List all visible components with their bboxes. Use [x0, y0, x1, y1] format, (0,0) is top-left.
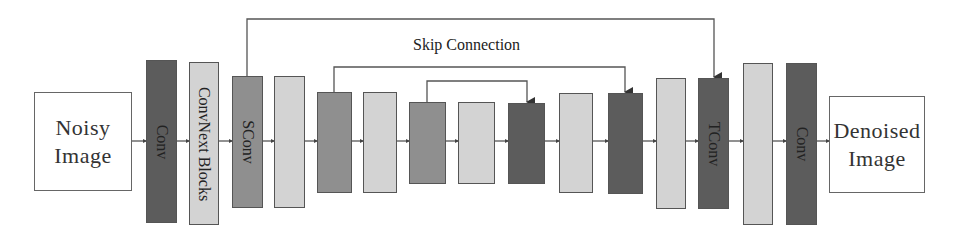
- conv-in-label: Conv: [153, 124, 171, 159]
- decoder-dark-block-3: [508, 103, 545, 184]
- decoder-light-block-2: [656, 78, 686, 209]
- noisy-image-line2: Image: [54, 142, 111, 170]
- decoder-light-block-1: [743, 63, 773, 225]
- noisy-image-label: Noisy Image: [54, 114, 111, 170]
- conv-in-block: Conv: [146, 60, 177, 223]
- conv-out-block: Conv: [786, 63, 817, 225]
- encoder-light-block-2: [363, 92, 397, 193]
- convnext-label: ConvNext Blocks: [195, 86, 213, 200]
- decoder-light-block-3: [559, 93, 593, 193]
- denoised-image-label: Denoised Image: [833, 117, 920, 173]
- noisy-image-box: Noisy Image: [34, 92, 132, 191]
- noisy-image-line1: Noisy: [54, 114, 111, 142]
- encoder-mid-block-3: [409, 102, 446, 184]
- sconv-block: SConv: [232, 76, 263, 208]
- denoised-image-box: Denoised Image: [829, 96, 925, 193]
- unet-diagram: Skip Connection Noisy Image Conv ConvNex…: [0, 0, 959, 233]
- convnext-blocks: ConvNext Blocks: [189, 62, 219, 225]
- encoder-light-block-1: [274, 76, 305, 208]
- bottleneck-light-block: [458, 102, 495, 184]
- denoised-image-line2: Image: [833, 145, 920, 173]
- tconv-label: TConv: [705, 121, 723, 165]
- tconv-block: TConv: [698, 78, 729, 209]
- skip-connection-label: Skip Connection: [413, 36, 520, 54]
- decoder-dark-block-2: [608, 93, 643, 194]
- encoder-mid-block-2: [317, 92, 352, 193]
- denoised-image-line1: Denoised: [833, 117, 920, 145]
- sconv-label: SConv: [239, 120, 257, 164]
- conv-out-label: Conv: [793, 127, 811, 162]
